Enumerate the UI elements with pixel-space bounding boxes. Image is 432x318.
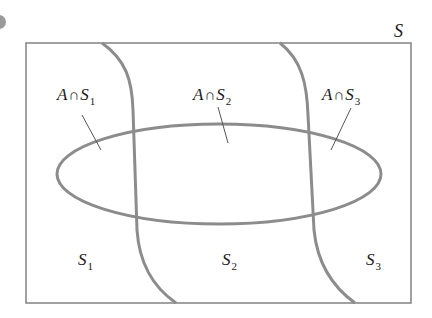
set-subscript: 3	[376, 260, 382, 272]
partition-label-s2: S2	[222, 251, 237, 268]
set-name: S	[366, 250, 375, 269]
set-name: S	[78, 250, 87, 269]
set-name: S	[222, 250, 231, 269]
set-name: S	[345, 85, 354, 104]
set-subscript: 1	[88, 260, 94, 272]
set-subscript: 2	[226, 95, 232, 107]
event-name: A	[322, 85, 332, 104]
event-name: A	[57, 85, 67, 104]
venn-diagram	[0, 0, 432, 318]
partition-label-s3: S3	[366, 251, 381, 268]
set-subscript: 1	[90, 95, 96, 107]
event-name: A	[193, 85, 203, 104]
partition-divider-2	[280, 43, 355, 303]
universe-label: S	[394, 22, 403, 40]
set-subscript: 3	[355, 95, 361, 107]
intersection-symbol: ∩	[204, 87, 215, 103]
intersection-label-a-s3: A∩S3	[322, 86, 360, 103]
set-name: S	[216, 85, 225, 104]
intersection-symbol: ∩	[333, 87, 344, 103]
partition-divider-1	[102, 43, 176, 303]
intersection-symbol: ∩	[68, 87, 79, 103]
partition-label-s1: S1	[78, 251, 93, 268]
set-name: S	[80, 85, 89, 104]
intersection-label-a-s2: A∩S2	[193, 86, 231, 103]
intersection-label-a-s1: A∩S1	[57, 86, 95, 103]
set-subscript: 2	[232, 260, 238, 272]
event-a-ellipse	[57, 124, 381, 224]
